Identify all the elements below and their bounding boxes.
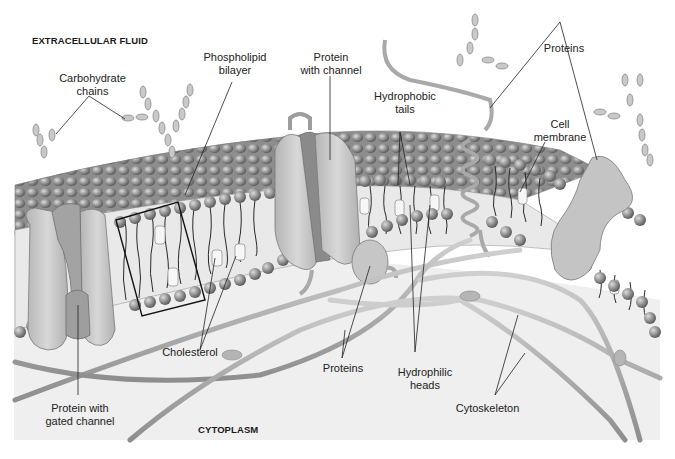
- label-cholesterol: Cholesterol: [155, 346, 225, 359]
- label-proteins-bottom: Proteins: [318, 362, 368, 375]
- label-line: Protein with: [40, 402, 120, 415]
- label-line: Cytoskeleton: [450, 402, 525, 415]
- label-line: Protein: [296, 51, 366, 64]
- label-line: Hydrophobic: [370, 90, 440, 103]
- label-cytoskeleton: Cytoskeleton: [450, 402, 525, 415]
- label-hydrophobic-tails: Hydrophobic tails: [370, 90, 440, 116]
- label-cell-membrane: Cell membrane: [530, 118, 590, 144]
- label-line: heads: [395, 379, 455, 392]
- label-line: Cell: [530, 118, 590, 131]
- cell-membrane-diagram: EXTRACELLULAR FLUID CYTOPLASM Carbohydra…: [0, 0, 675, 459]
- label-line: bilayer: [200, 64, 270, 77]
- label-line: Carbohydrate: [55, 72, 130, 85]
- label-line: with channel: [296, 64, 366, 77]
- label-line: chains: [55, 85, 130, 98]
- label-line: Phospholipid: [200, 51, 270, 64]
- label-line: membrane: [530, 131, 590, 144]
- label-line: gated channel: [40, 415, 120, 428]
- label-line: tails: [370, 103, 440, 116]
- gated-channel-protein: [26, 204, 115, 350]
- label-protein-with-channel: Protein with channel: [296, 51, 366, 77]
- label-line: Hydrophilic: [395, 366, 455, 379]
- label-hydrophilic-heads: Hydrophilic heads: [395, 366, 455, 392]
- region-cytoplasm: CYTOPLASM: [198, 424, 258, 435]
- label-line: Proteins: [318, 362, 368, 375]
- region-extracellular-fluid: EXTRACELLULAR FLUID: [32, 35, 148, 46]
- label-protein-gated-channel: Protein with gated channel: [40, 402, 120, 428]
- label-line: Proteins: [540, 42, 588, 55]
- label-proteins-top: Proteins: [540, 42, 588, 55]
- label-line: Cholesterol: [155, 346, 225, 359]
- label-carbohydrate-chains: Carbohydrate chains: [55, 72, 130, 98]
- label-phospholipid-bilayer: Phospholipid bilayer: [200, 51, 270, 77]
